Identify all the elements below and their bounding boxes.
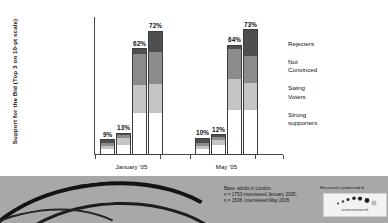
legend-item-swing[interactable]: SwingVoters — [288, 84, 384, 101]
legend-item-label: Swing — [288, 84, 384, 92]
logo-wordmark: icmresearch — [324, 207, 386, 212]
bar-segment-rejecters — [149, 32, 162, 52]
y-axis-title: Support for the Bid (Top 3 on 10-pt scal… — [11, 12, 18, 152]
chart-legend: RejectersNotConvincedSwingVotersStrongsu… — [288, 40, 384, 137]
x-axis-tick — [255, 155, 256, 159]
x-axis-tick — [283, 155, 284, 159]
legend-item-not[interactable]: NotConvinced — [288, 58, 384, 75]
bar-segment-strong-supporters — [196, 149, 209, 154]
legend-item-label: Not — [288, 58, 384, 66]
research-credit: Research conducted b — [320, 185, 364, 190]
bar-segment-not-convinced — [149, 52, 162, 84]
bar-value-label: 73% — [241, 21, 260, 28]
bar-segment-strong-supporters — [212, 145, 225, 154]
bar-segment-strong-supporters — [101, 149, 114, 154]
x-axis-label: January '05 — [102, 163, 162, 170]
bar-segment-swing-voters — [228, 79, 241, 109]
bar[interactable] — [132, 48, 147, 155]
legend-item-label-2: Voters — [288, 93, 384, 101]
bar[interactable] — [243, 29, 258, 155]
bar-segment-not-convinced — [133, 54, 146, 84]
base-note-line-3: n = 1508, interviewed May 2005 — [224, 198, 297, 204]
bar[interactable] — [148, 31, 163, 155]
legend-item-label: Strong — [288, 111, 384, 119]
x-axis-tick — [95, 155, 96, 159]
x-axis-tick — [160, 155, 161, 159]
bar-segment-strong-supporters — [244, 110, 257, 154]
bar-value-label: 62% — [130, 40, 149, 47]
bar[interactable] — [211, 134, 226, 155]
bar-segment-swing-voters — [244, 83, 257, 110]
chart-container: Support for the Bid (Top 3 on 10-pt scal… — [0, 0, 388, 176]
bar-value-label: 13% — [114, 124, 133, 131]
bar-value-label: 9% — [98, 131, 117, 138]
bar-value-label: 64% — [225, 36, 244, 43]
bar-segment-strong-supporters — [228, 110, 241, 154]
bar-group: 9%13%62%72% — [100, 17, 163, 155]
logo-dots-icon — [324, 194, 386, 208]
legend-item-label-2: supporters — [288, 119, 384, 127]
legend-item-label: Rejecters — [288, 40, 384, 48]
legend-item-strong[interactable]: Strongsupporters — [288, 111, 384, 128]
bar-segment-swing-voters — [133, 85, 146, 114]
bar-group: 10%12%64%73% — [195, 17, 258, 155]
bar[interactable] — [116, 133, 131, 155]
bar[interactable] — [195, 138, 210, 155]
x-axis-label: May '05 — [197, 163, 257, 170]
bar-segment-swing-voters — [149, 84, 162, 113]
bar[interactable] — [100, 139, 115, 155]
legend-item-label-2: Convinced — [288, 66, 384, 74]
plot-area: 9%13%62%72%10%12%64%73% — [95, 17, 283, 155]
bar-segment-strong-supporters — [117, 145, 130, 154]
bar-segment-strong-supporters — [133, 113, 146, 154]
bar-segment-rejecters — [244, 30, 257, 55]
x-axis-tick — [190, 155, 191, 159]
bar-value-label: 72% — [146, 22, 165, 29]
bar-segment-not-convinced — [228, 49, 241, 79]
bar-segment-strong-supporters — [149, 113, 162, 154]
legend-item-rejecters[interactable]: Rejecters — [288, 40, 384, 48]
bar-value-label: 12% — [209, 126, 228, 133]
research-agency-logo: icmresearch — [323, 193, 387, 217]
base-note: Base: adults in London n = 1753 intervie… — [224, 186, 297, 205]
bar[interactable] — [227, 45, 242, 155]
bar-segment-not-convinced — [244, 56, 257, 83]
